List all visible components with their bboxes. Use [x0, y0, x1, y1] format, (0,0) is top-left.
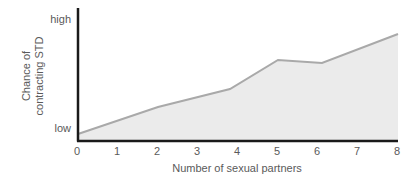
y-axis-title-line1: Chance of — [20, 50, 32, 101]
x-tick: 7 — [354, 145, 360, 157]
area-fill — [78, 34, 398, 140]
x-tick-labels: 0 1 2 3 4 5 6 7 8 — [74, 145, 400, 157]
x-tick: 4 — [234, 145, 240, 157]
x-tick: 0 — [74, 145, 80, 157]
chart: high low Chance of contracting STD 0 1 2… — [0, 0, 418, 181]
x-tick: 2 — [154, 145, 160, 157]
x-tick: 5 — [274, 145, 280, 157]
x-tick: 1 — [114, 145, 120, 157]
x-axis-title: Number of sexual partners — [172, 162, 302, 174]
y-axis-title-line2: contracting STD — [33, 37, 45, 116]
x-tick: 3 — [194, 145, 200, 157]
y-tick-low: low — [54, 122, 71, 134]
y-tick-high: high — [50, 13, 71, 25]
x-tick: 8 — [394, 145, 400, 157]
x-tick: 6 — [314, 145, 320, 157]
